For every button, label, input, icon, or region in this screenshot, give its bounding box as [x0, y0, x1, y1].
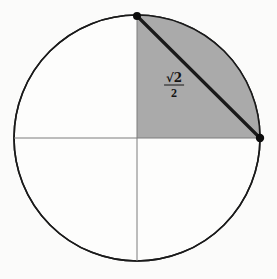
right-point-dot [256, 134, 264, 142]
top-point-dot [133, 12, 141, 20]
unit-circle-figure: √2 2 [0, 0, 277, 279]
figure-canvas [0, 0, 277, 279]
